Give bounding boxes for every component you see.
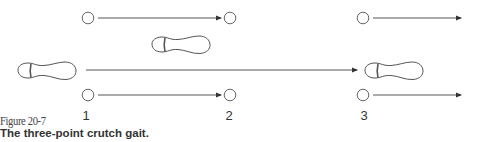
- step-label-3: 3: [360, 109, 367, 122]
- footprint-icon-start: [18, 62, 76, 80]
- crutch-tip-bottom-1: [82, 89, 94, 101]
- footprint-icon-end: [365, 62, 423, 80]
- crutch-gait-diagram: [0, 0, 479, 142]
- step-label-2: 2: [225, 109, 232, 122]
- crutch-tip-top-3: [357, 12, 369, 24]
- figure-title: The three-point crutch gait.: [0, 127, 149, 139]
- crutch-tip-bottom-3: [357, 89, 369, 101]
- crutch-tip-top-2: [224, 12, 236, 24]
- crutch-tip-top-1: [82, 12, 94, 24]
- step-label-1: 1: [82, 109, 89, 122]
- footprint-icon-middle: [152, 36, 210, 54]
- crutch-tip-bottom-2: [224, 89, 236, 101]
